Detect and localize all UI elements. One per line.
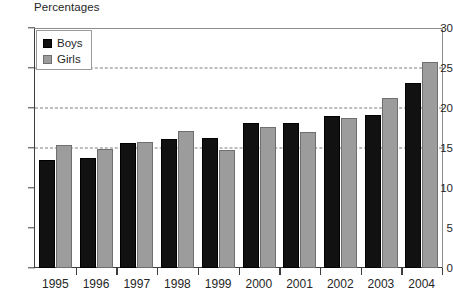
legend-item-boys: Boys xyxy=(43,36,91,51)
legend-item-girls: Girls xyxy=(43,52,91,67)
bar-girls-2003 xyxy=(382,98,398,268)
y-tick-mark-20 xyxy=(28,107,35,108)
bar-boys-2000 xyxy=(243,123,259,268)
x-tick-label-1996: 1996 xyxy=(83,277,110,291)
x-tick-mark-2004 xyxy=(442,268,443,275)
bar-boys-1999 xyxy=(202,138,218,268)
x-tick-label-2004: 2004 xyxy=(408,277,435,291)
bar-group-2000 xyxy=(243,28,279,268)
x-tick-mark-2000 xyxy=(279,268,280,275)
bar-group-2004 xyxy=(405,28,441,268)
bar-girls-2000 xyxy=(260,127,276,268)
bar-boys-1996 xyxy=(80,158,96,268)
bar-girls-1995 xyxy=(56,145,72,268)
x-tick-label-1997: 1997 xyxy=(123,277,150,291)
bar-girls-2004 xyxy=(422,62,438,268)
x-tick-mark-2002 xyxy=(361,268,362,275)
x-tick-mark-1999 xyxy=(239,268,240,275)
x-tick-label-1995: 1995 xyxy=(42,277,69,291)
x-tick-label-2001: 2001 xyxy=(286,277,313,291)
bar-chart: Percentages 051015202530 199519961997199… xyxy=(0,0,453,304)
bar-boys-1995 xyxy=(39,160,55,268)
chart-legend: Boys Girls xyxy=(36,30,92,70)
legend-label-girls: Girls xyxy=(57,54,81,66)
bar-girls-1997 xyxy=(137,142,153,268)
bar-group-1999 xyxy=(202,28,238,268)
bar-group-1998 xyxy=(161,28,197,268)
legend-swatch-girls-icon xyxy=(43,55,52,64)
legend-label-boys: Boys xyxy=(57,38,83,50)
x-tick-label-2002: 2002 xyxy=(327,277,354,291)
y-tick-mark-30 xyxy=(28,27,35,28)
x-tick-mark-1995 xyxy=(76,268,77,275)
x-tick-mark-1996 xyxy=(116,268,117,275)
y-tick-mark-15 xyxy=(28,147,35,148)
bar-group-2002 xyxy=(324,28,360,268)
x-tick-mark-1998 xyxy=(198,268,199,275)
x-tick-label-2003: 2003 xyxy=(368,277,395,291)
x-tick-mark-1997 xyxy=(157,268,158,275)
x-tick-label-1998: 1998 xyxy=(164,277,191,291)
legend-swatch-boys-icon xyxy=(43,39,52,48)
x-tick-mark-2001 xyxy=(320,268,321,275)
bar-girls-2001 xyxy=(300,132,316,268)
y-tick-mark-10 xyxy=(28,187,35,188)
bar-boys-2004 xyxy=(405,83,421,268)
bar-boys-1997 xyxy=(120,143,136,268)
x-tick-mark-2003 xyxy=(401,268,402,275)
bar-boys-1998 xyxy=(161,139,177,268)
bar-group-1997 xyxy=(120,28,156,268)
bar-group-2001 xyxy=(283,28,319,268)
bar-girls-1998 xyxy=(178,131,194,268)
bar-girls-2002 xyxy=(341,118,357,268)
bar-groups xyxy=(35,28,442,268)
bar-girls-1999 xyxy=(219,150,235,268)
y-tick-mark-25 xyxy=(28,67,35,68)
x-tick-label-2000: 2000 xyxy=(245,277,272,291)
bar-girls-1996 xyxy=(97,149,113,268)
y-tick-mark-0 xyxy=(28,267,35,268)
bar-boys-2001 xyxy=(283,123,299,268)
bar-boys-2002 xyxy=(324,116,340,268)
x-tick-label-1999: 1999 xyxy=(205,277,232,291)
bar-group-2003 xyxy=(365,28,401,268)
page-title: Percentages xyxy=(34,1,100,13)
bar-boys-2003 xyxy=(365,115,381,268)
y-tick-mark-5 xyxy=(28,227,35,228)
